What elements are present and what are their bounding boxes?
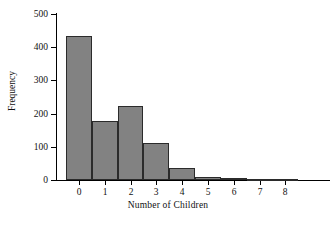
x-tick-label-0: 0 [69,187,89,197]
x-tick-label-1: 1 [95,187,115,197]
x-tick-2 [131,181,132,185]
x-tick-3 [156,181,157,185]
y-tick-100 [51,147,56,148]
bar-1 [92,121,118,180]
bar-8 [272,179,298,181]
x-tick-6 [234,181,235,185]
x-tick-label-6: 6 [224,187,244,197]
x-tick-8 [285,181,286,185]
y-tick-label-500: 500 [8,10,48,20]
y-tick-400 [51,47,56,48]
x-tick-label-7: 7 [250,187,270,197]
y-tick-300 [51,80,56,81]
histogram-figure: 0 100 200 300 400 500 0 1 2 3 4 5 6 7 8 … [0,0,336,226]
bar-0 [66,36,92,180]
x-tick-label-3: 3 [146,187,166,197]
bar-3 [143,143,169,180]
x-tick-label-5: 5 [198,187,218,197]
y-tick-0 [51,180,56,181]
bar-2 [118,106,144,180]
x-tick-7 [260,181,261,185]
y-tick-200 [51,114,56,115]
bar-5 [195,177,221,180]
x-tick-label-8: 8 [275,187,295,197]
x-tick-0 [79,181,80,185]
y-tick-label-0: 0 [8,176,48,186]
x-tick-label-2: 2 [121,187,141,197]
y-tick-label-100: 100 [8,143,48,153]
x-tick-5 [208,181,209,185]
y-axis-title: Frequency [7,51,17,131]
y-axis-line [56,13,57,181]
x-tick-label-4: 4 [172,187,192,197]
x-tick-1 [105,181,106,185]
bar-6 [221,178,247,180]
x-axis-title: Number of Children [0,200,336,210]
y-tick-500 [51,14,56,15]
x-tick-4 [182,181,183,185]
bar-7 [247,179,273,181]
bar-4 [169,168,195,180]
